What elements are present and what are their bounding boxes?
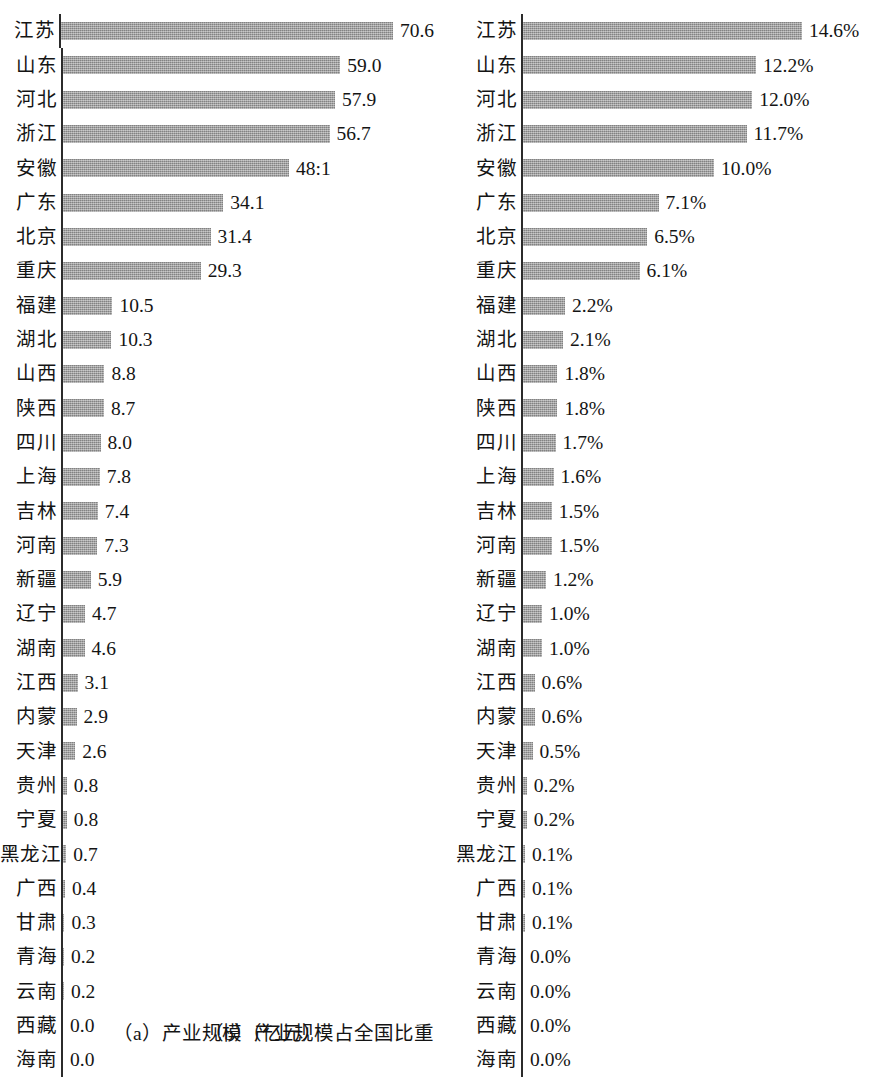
- bar: [523, 674, 535, 692]
- category-label-吉林: 吉林: [435, 502, 521, 522]
- bar: [61, 22, 393, 40]
- bar-and-value: 12.0%: [523, 83, 869, 117]
- caption-panel-b: （b）产业规模占全国比重: [204, 1024, 434, 1044]
- value-label: 0.6%: [535, 707, 583, 727]
- bar: [523, 742, 533, 760]
- bar-row: 上海1.6%: [435, 460, 869, 494]
- value-label: 1.2%: [546, 570, 594, 590]
- bar-and-value: 10.0%: [523, 151, 869, 185]
- category-label-天津: 天津: [435, 742, 521, 762]
- value-label: 0.5%: [533, 742, 581, 762]
- category-label-江西: 江西: [435, 673, 521, 693]
- value-label: 0.2%: [527, 776, 575, 796]
- category-label-云南: 云南: [435, 982, 521, 1002]
- bar: [523, 502, 552, 520]
- bar-row: 安徽10.0%: [435, 151, 869, 185]
- bar-and-value: 7.3: [63, 528, 434, 562]
- value-label: 1.8%: [557, 364, 605, 384]
- bar-and-value: 1.8%: [523, 391, 869, 425]
- bar-and-value: 14.6%: [523, 14, 869, 48]
- bar-row: 福建10.5: [0, 288, 434, 322]
- value-label: 10.3: [111, 330, 152, 350]
- bar-row: 西藏0.0%: [435, 1009, 869, 1043]
- bar-row: 宁夏0.8: [0, 803, 434, 837]
- bar-row: 天津2.6: [0, 734, 434, 768]
- bar: [63, 228, 211, 246]
- bar-row: 广西0.4: [0, 871, 434, 905]
- bar-and-value: 0.2%: [523, 769, 869, 803]
- value-label: 1.8%: [557, 399, 605, 419]
- value-label: 56.7: [330, 124, 371, 144]
- category-label-山东: 山东: [0, 56, 61, 76]
- bar: [523, 468, 554, 486]
- value-label: 0.0: [63, 1050, 94, 1070]
- bar: [523, 297, 565, 315]
- category-label-贵州: 贵州: [435, 776, 521, 796]
- bar-row: 江苏70.6: [0, 14, 434, 48]
- category-label-河南: 河南: [435, 536, 521, 556]
- bar-row: 四川1.7%: [435, 426, 869, 460]
- value-label: 14.6%: [802, 21, 859, 41]
- bar: [63, 365, 104, 383]
- category-label-重庆: 重庆: [0, 261, 61, 281]
- value-label: 0.0%: [523, 1050, 571, 1070]
- category-label-四川: 四川: [0, 433, 61, 453]
- value-label: 0.6%: [535, 673, 583, 693]
- bar-and-value: 29.3: [63, 254, 434, 288]
- bar: [523, 365, 557, 383]
- value-label: 10.0%: [714, 159, 771, 179]
- category-label-吉林: 吉林: [0, 502, 61, 522]
- bar-and-value: 10.5: [63, 288, 434, 322]
- bar-row: 江苏14.6%: [435, 14, 869, 48]
- bar-row: 云南0.2: [0, 974, 434, 1008]
- value-label: 0.3: [64, 913, 95, 933]
- bar-row: 新疆5.9: [0, 563, 434, 597]
- bar-and-value: 0.3: [63, 906, 434, 940]
- category-label-江西: 江西: [0, 673, 61, 693]
- bar: [63, 742, 75, 760]
- bar: [523, 708, 535, 726]
- panel-a-rows: 江苏70.6山东59.0河北57.9浙江56.7安徽48:1广东34.1北京31…: [0, 14, 434, 1077]
- bar: [63, 262, 201, 280]
- bar: [63, 434, 101, 452]
- bar: [523, 537, 552, 555]
- bar: [523, 91, 752, 109]
- bar: [63, 674, 78, 692]
- bar-row: 甘肃0.1%: [435, 906, 869, 940]
- category-label-重庆: 重庆: [435, 261, 521, 281]
- category-label-湖北: 湖北: [435, 330, 521, 350]
- category-label-山东: 山东: [435, 56, 521, 76]
- value-label: 1.0%: [542, 639, 590, 659]
- bar: [523, 125, 747, 143]
- category-label-内蒙: 内蒙: [0, 707, 61, 727]
- category-label-黑龙江: 黑龙江: [435, 845, 521, 865]
- category-label-福建: 福建: [0, 296, 61, 316]
- value-label: 3.1: [78, 673, 109, 693]
- bar-and-value: 56.7: [63, 117, 434, 151]
- value-label: 1.5%: [552, 502, 600, 522]
- bar-and-value: 0.1%: [523, 837, 869, 871]
- bar-and-value: 31.4: [63, 220, 434, 254]
- bar: [63, 194, 223, 212]
- bar-and-value: 70.6: [61, 14, 434, 48]
- category-label-湖南: 湖南: [0, 639, 61, 659]
- category-label-西藏: 西藏: [0, 1016, 61, 1036]
- value-label: 0.0%: [523, 1016, 571, 1036]
- bar: [63, 708, 77, 726]
- bar-and-value: 0.2%: [523, 803, 869, 837]
- category-label-宁夏: 宁夏: [0, 810, 61, 830]
- bar-and-value: 0.2: [63, 940, 434, 974]
- value-label: 1.0%: [542, 604, 590, 624]
- bar-and-value: 8.8: [63, 357, 434, 391]
- bar-and-value: 0.0%: [523, 1043, 869, 1077]
- category-label-天津: 天津: [0, 742, 61, 762]
- bar-and-value: 0.6%: [523, 666, 869, 700]
- category-label-海南: 海南: [0, 1050, 61, 1070]
- category-label-海南: 海南: [435, 1050, 521, 1070]
- value-label: 2.9: [77, 707, 108, 727]
- category-label-河北: 河北: [0, 90, 61, 110]
- bar-row: 青海0.0%: [435, 940, 869, 974]
- category-label-内蒙: 内蒙: [435, 707, 521, 727]
- bar-row: 福建2.2%: [435, 288, 869, 322]
